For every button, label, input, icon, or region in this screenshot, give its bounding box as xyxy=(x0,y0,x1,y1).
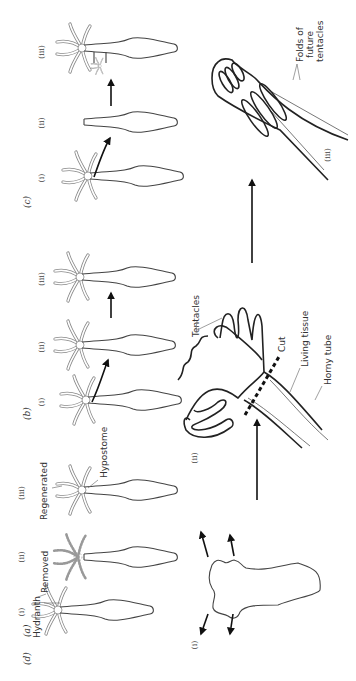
folds-label-line3: tentacles xyxy=(315,20,325,62)
panel-a-label: (a) xyxy=(22,624,32,637)
stage-d-i-label: (i) xyxy=(190,641,199,650)
hydroid-a-i xyxy=(33,586,153,634)
hydroid-c-iii xyxy=(57,24,177,72)
stage-a-ii-label: (ii) xyxy=(17,551,26,562)
hydroid-b-i xyxy=(61,376,181,424)
hydroid-a-iii xyxy=(57,466,177,514)
panel-d-label: (d) xyxy=(22,652,32,665)
hypostome-label: Hypostome xyxy=(99,426,109,478)
stage-b-i-label: (i) xyxy=(37,398,46,407)
stage-b-ii-label: (ii) xyxy=(37,341,46,352)
hydroid-regeneration-figure: (a) (i) (ii) (iii) Hydranth Removed Rege… xyxy=(0,0,356,681)
hydroid-c-i xyxy=(63,152,183,200)
tentacles-label: Tentacles xyxy=(191,295,201,338)
panel-a: (a) (i) (ii) (iii) Hydranth Removed Rege… xyxy=(17,426,177,638)
hydroid-c-ii xyxy=(84,112,177,133)
stage-c-ii-label: (ii) xyxy=(37,117,46,128)
panel-c-label: (c) xyxy=(22,195,32,208)
panel-c: (c) (i) (ii) (iii) xyxy=(22,24,183,208)
stage-c-iii-label: (iii) xyxy=(37,45,46,59)
stage-b-iii-label: (iii) xyxy=(37,272,46,286)
regenerated-label: Regenerated xyxy=(39,462,49,520)
panel-b: (b) (i) (ii) (iii) xyxy=(22,253,181,424)
folds-label-line2: future xyxy=(305,30,315,58)
stage-d-iii-label: (iii) xyxy=(323,148,332,162)
removed-label: Removed xyxy=(40,551,50,593)
panel-b-label: (b) xyxy=(22,407,32,420)
stage-a-i-label: (i) xyxy=(17,608,26,617)
stage-a-iii-label: (iii) xyxy=(17,486,26,500)
graft-arrow-c xyxy=(94,138,110,177)
hydranth-label: Hydranth xyxy=(32,596,42,638)
secondary-bud-c-iii xyxy=(91,52,106,74)
cut-label: Cut xyxy=(277,336,287,352)
hydroid-b-ii xyxy=(55,321,175,369)
stage-d-ii-label: (ii) xyxy=(190,452,199,463)
living-tissue-label: Living tissue xyxy=(300,310,310,367)
folds-label-line1: Folds of xyxy=(295,26,305,62)
horny-tube-label: Horny tube xyxy=(323,334,333,385)
hydroid-a-ii xyxy=(53,533,86,581)
hydranth-d-i xyxy=(201,532,320,634)
stage-c-i-label: (i) xyxy=(37,174,46,183)
hydroid-b-iii xyxy=(55,253,175,301)
